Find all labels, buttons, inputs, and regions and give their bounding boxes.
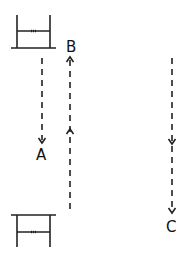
label-c: C <box>166 218 176 236</box>
arrow-down-icon <box>169 208 176 213</box>
path-c <box>169 58 176 213</box>
path-b <box>67 57 74 212</box>
bottom-frame <box>11 215 56 247</box>
diagram-canvas: A B C <box>0 0 196 259</box>
label-b: B <box>66 38 76 56</box>
label-a: A <box>36 146 47 164</box>
path-a <box>39 58 46 143</box>
top-frame <box>11 15 56 48</box>
